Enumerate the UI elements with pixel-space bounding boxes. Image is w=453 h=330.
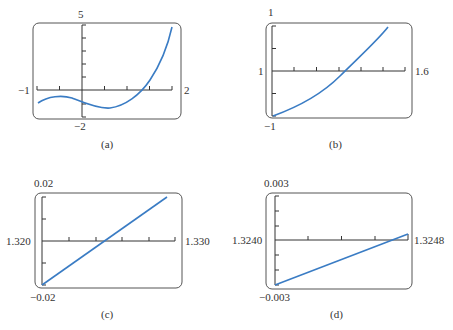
panel-d-plot [0, 0, 453, 330]
d-xmin-label: 1.3240 [232, 235, 262, 246]
d-xmax-label: 1.3248 [414, 235, 444, 246]
d-ymax-label: 0.003 [264, 178, 289, 189]
d-ymin-label: −0.003 [259, 292, 290, 303]
d-caption: (d) [330, 309, 343, 320]
curve-d [275, 234, 408, 285]
